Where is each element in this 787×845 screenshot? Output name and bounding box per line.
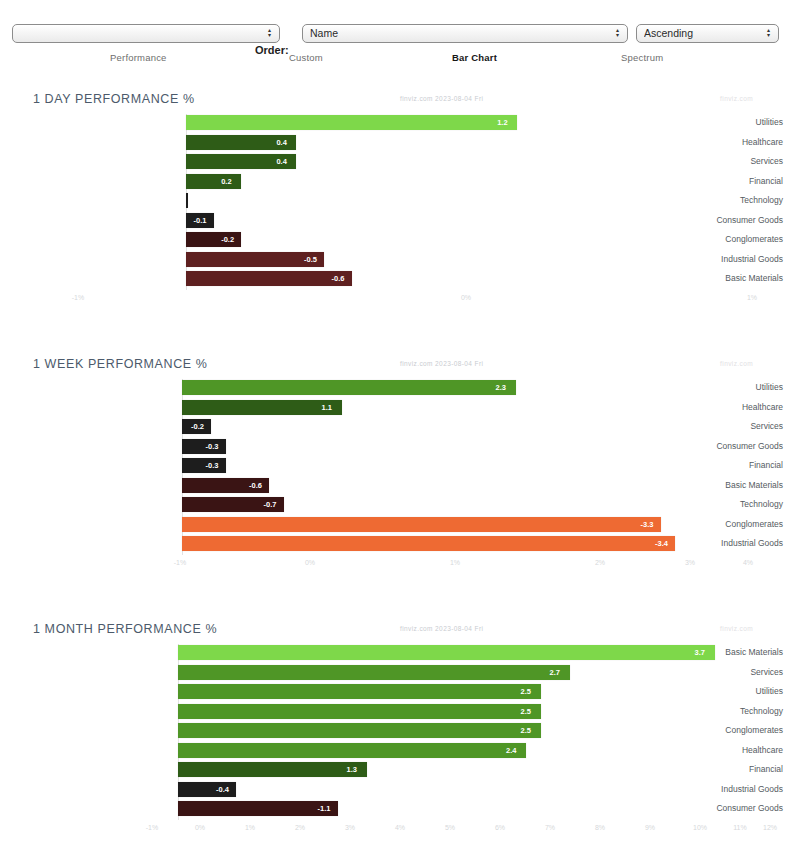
bar-category-label: Utilities bbox=[603, 117, 787, 127]
bar-category-label: Financial bbox=[611, 764, 787, 774]
tab-bar: Performance Custom Bar Chart Spectrum bbox=[0, 52, 787, 68]
bar-row: Financial-0.3 bbox=[0, 457, 787, 477]
bar-row: Utilities2.5 bbox=[0, 683, 787, 703]
bar-value-label: 2.5 bbox=[521, 727, 531, 735]
bar-category-label: Consumer Goods bbox=[603, 215, 787, 225]
bar-value-label: -0.4 bbox=[216, 786, 229, 794]
axis-tick-label: 5% bbox=[445, 824, 455, 831]
bar-row: Financial0.2 bbox=[0, 173, 787, 193]
bar-value-label: 0.4 bbox=[276, 158, 286, 166]
bar-category-label: Basic Materials bbox=[603, 273, 787, 283]
axis-tick-label: 1% bbox=[450, 559, 460, 566]
bar-row: Industrial Goods-0.4 bbox=[0, 781, 787, 801]
bar-category-label: Conglomerates bbox=[603, 234, 787, 244]
axis-tick-label: -1% bbox=[174, 559, 186, 566]
bar bbox=[178, 645, 715, 660]
x-axis: -1%0%1%2%3%4% bbox=[0, 559, 787, 571]
axis-tick-label: 2% bbox=[295, 824, 305, 831]
tab-performance[interactable]: Performance bbox=[110, 52, 167, 63]
bar bbox=[178, 723, 541, 738]
bar-value-label: -0.3 bbox=[206, 462, 219, 470]
bar-value-label: -0.3 bbox=[206, 443, 219, 451]
bar-category-label: Services bbox=[603, 156, 787, 166]
bar-category-label: Industrial Goods bbox=[603, 254, 787, 264]
bar-value-label: -0.6 bbox=[332, 275, 345, 283]
bar-row: Services-0.2 bbox=[0, 418, 787, 438]
bar-value-label: 1.1 bbox=[322, 404, 332, 412]
bar-row: Technology0.0 bbox=[0, 192, 787, 212]
bar-row: Healthcare0.4 bbox=[0, 134, 787, 154]
bar bbox=[182, 439, 226, 454]
bar-value-label: -3.3 bbox=[641, 521, 654, 529]
bar-row: Conglomerates-0.2 bbox=[0, 231, 787, 251]
axis-tick-label: 8% bbox=[595, 824, 605, 831]
bar-value-label: 2.7 bbox=[550, 669, 560, 677]
x-axis: -1%0%1% bbox=[0, 294, 787, 306]
axis-tick-label: 0% bbox=[195, 824, 205, 831]
axis-tick-label: 6% bbox=[495, 824, 505, 831]
chart-title: 1 MONTH PERFORMANCE % bbox=[33, 622, 217, 636]
bar-value-label: -1.1 bbox=[318, 805, 331, 813]
bar-row: Technology2.5 bbox=[0, 703, 787, 723]
bar-row: Utilities2.3 bbox=[0, 379, 787, 399]
bar-value-label: 1.3 bbox=[347, 766, 357, 774]
axis-tick-label: 10% bbox=[693, 824, 707, 831]
bar-row: Consumer Goods-0.1 bbox=[0, 212, 787, 232]
order-select-value: Name bbox=[310, 27, 609, 39]
bar bbox=[178, 704, 541, 719]
bar-row: Utilities1.2 bbox=[0, 114, 787, 134]
axis-tick-label: -1% bbox=[146, 824, 158, 831]
bar-row: Consumer Goods-0.3 bbox=[0, 438, 787, 458]
axis-tick-label: 4% bbox=[743, 559, 753, 566]
chart-subtitle: finviz.com 2023-08-04 Fri bbox=[400, 625, 483, 632]
bar bbox=[178, 665, 570, 680]
bar bbox=[186, 115, 517, 130]
bar-category-label: Services bbox=[607, 421, 787, 431]
bar-category-label: Consumer Goods bbox=[607, 441, 787, 451]
bar-value-label: 0.4 bbox=[276, 139, 286, 147]
bar bbox=[186, 193, 188, 208]
bar-row: Consumer Goods-1.1 bbox=[0, 800, 787, 820]
bar-category-label: Industrial Goods bbox=[611, 784, 787, 794]
bar-row: Services2.7 bbox=[0, 664, 787, 684]
bar bbox=[178, 762, 367, 777]
bar-category-label: Utilities bbox=[611, 686, 787, 696]
chart-watermark: finviz.com bbox=[720, 95, 753, 102]
axis-tick-label: 2% bbox=[595, 559, 605, 566]
bar-row: Basic Materials3.7 bbox=[0, 644, 787, 664]
bar-category-label: Healthcare bbox=[607, 402, 787, 412]
bar bbox=[182, 400, 342, 415]
bar-category-label: Healthcare bbox=[603, 137, 787, 147]
chart-title: 1 WEEK PERFORMANCE % bbox=[33, 357, 208, 371]
bar-row: Financial1.3 bbox=[0, 761, 787, 781]
plot-area: Utilities2.3Healthcare1.1Services-0.2Con… bbox=[0, 379, 787, 555]
plot-area: Basic Materials3.7Services2.7Utilities2.… bbox=[0, 644, 787, 820]
bar-value-label: 0.2 bbox=[221, 178, 231, 186]
chevron-updown-icon: ▴ ▾ bbox=[612, 26, 623, 41]
bar bbox=[178, 743, 526, 758]
chevron-down-glyph: ▾ bbox=[268, 33, 271, 38]
plot-area: Utilities1.2Healthcare0.4Services0.4Fina… bbox=[0, 114, 787, 290]
tab-spectrum[interactable]: Spectrum bbox=[621, 52, 663, 63]
bar-value-label: 0.0 bbox=[168, 197, 178, 205]
chevron-updown-icon: ▴ ▾ bbox=[763, 26, 774, 41]
bar-category-label: Technology bbox=[607, 499, 787, 509]
filter-select[interactable]: ▴ ▾ bbox=[12, 24, 280, 43]
bar bbox=[186, 174, 241, 189]
bar-category-label: Utilities bbox=[607, 382, 787, 392]
axis-tick-label: 9% bbox=[645, 824, 655, 831]
bar bbox=[182, 536, 675, 551]
direction-select[interactable]: Ascending ▴ ▾ bbox=[636, 24, 779, 43]
order-select[interactable]: Name ▴ ▾ bbox=[302, 24, 628, 43]
bar-value-label: 2.3 bbox=[496, 384, 506, 392]
bar-category-label: Healthcare bbox=[611, 745, 787, 755]
tab-custom[interactable]: Custom bbox=[289, 52, 323, 63]
chart-subtitle: finviz.com 2023-08-04 Fri bbox=[400, 360, 483, 367]
direction-select-value: Ascending bbox=[644, 27, 760, 39]
chart-title: 1 DAY PERFORMANCE % bbox=[33, 92, 195, 106]
axis-tick-label: -1% bbox=[72, 294, 84, 301]
bar-value-label: 2.5 bbox=[521, 708, 531, 716]
axis-tick-label: 3% bbox=[345, 824, 355, 831]
tab-bar-chart[interactable]: Bar Chart bbox=[452, 52, 497, 63]
bar-row: Basic Materials-0.6 bbox=[0, 477, 787, 497]
